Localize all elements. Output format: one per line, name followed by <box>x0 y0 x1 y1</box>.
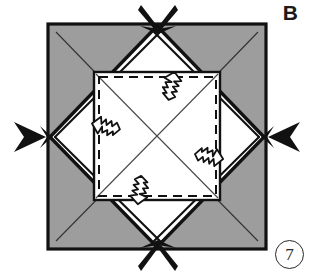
step-number-badge: 7 <box>275 240 304 269</box>
step-number-text: 7 <box>285 245 294 265</box>
figure-label-b: B <box>283 2 298 23</box>
origami-figure: B 7 <box>0 0 314 277</box>
origami-diagram-svg <box>0 0 314 277</box>
